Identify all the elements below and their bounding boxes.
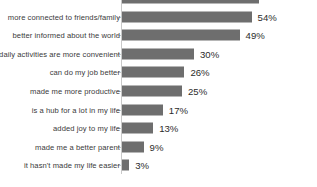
bar-value-label: 17% <box>169 104 188 115</box>
bar[interactable] <box>122 141 144 152</box>
bar-track: 26% <box>122 63 317 82</box>
bar-value-label: 25% <box>188 86 207 97</box>
bar[interactable] <box>122 48 194 59</box>
chart-row: made me a better parent 9% <box>0 137 317 156</box>
bar-track: 17% <box>122 100 317 119</box>
bar-track <box>122 0 317 8</box>
chart-row: daily activities are more convenient 30% <box>0 45 317 64</box>
bar-value-label: 26% <box>190 67 209 78</box>
bar-value-label: 13% <box>159 123 178 134</box>
bar-track: 30% <box>122 45 317 64</box>
chart-row <box>0 0 317 8</box>
plot-area: more connected to friends/family 54% bet… <box>0 0 317 174</box>
bar-value-label: 9% <box>150 141 164 152</box>
bar[interactable] <box>122 104 163 115</box>
source-note <box>188 180 317 187</box>
bar-track: 3% <box>122 156 317 175</box>
category-label: made me a better parent <box>0 142 120 151</box>
bar-track: 25% <box>122 82 317 101</box>
bar[interactable] <box>122 30 240 41</box>
category-label: daily activities are more convenient <box>0 49 120 58</box>
chart-row: made me more productive 25% <box>0 82 317 101</box>
bar[interactable] <box>122 86 182 97</box>
bar[interactable] <box>122 0 259 4</box>
chart-row: is a hub for a lot in my life 17% <box>0 100 317 119</box>
category-label: can do my job better <box>0 68 120 77</box>
bar[interactable] <box>122 123 153 134</box>
bar-value-label: 49% <box>246 30 265 41</box>
category-label: better informed about the world <box>0 31 120 40</box>
chart-row: it hasn't made my life easier 3% <box>0 156 317 175</box>
bar-track: 9% <box>122 137 317 156</box>
category-label: more connected to friends/family <box>0 12 120 21</box>
bar-value-label: 30% <box>200 48 219 59</box>
bar-chart: more connected to friends/family 54% bet… <box>0 0 317 187</box>
chart-row: added joy to my life 13% <box>0 119 317 138</box>
chart-row: can do my job better 26% <box>0 63 317 82</box>
category-label: it hasn't made my life easier <box>0 161 120 170</box>
bar-track: 49% <box>122 26 317 45</box>
category-label: is a hub for a lot in my life <box>0 105 120 114</box>
category-label: made me more productive <box>0 87 120 96</box>
bar[interactable] <box>122 160 129 171</box>
bar-value-label: 3% <box>135 160 149 171</box>
bar[interactable] <box>122 11 252 22</box>
bar[interactable] <box>122 67 184 78</box>
bar-track: 13% <box>122 119 317 138</box>
category-label: added joy to my life <box>0 124 120 133</box>
chart-row: better informed about the world 49% <box>0 26 317 45</box>
bar-value-label: 54% <box>258 11 277 22</box>
bar-track: 54% <box>122 8 317 27</box>
chart-row: more connected to friends/family 54% <box>0 8 317 27</box>
